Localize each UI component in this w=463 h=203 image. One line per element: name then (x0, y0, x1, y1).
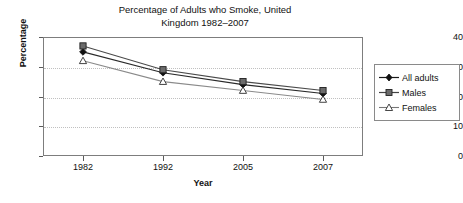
x-axis-title: Year (43, 178, 363, 188)
y-tick-label-0: 0 (437, 151, 463, 161)
plot-area (43, 37, 363, 156)
x-tick-label-1992: 1992 (133, 162, 193, 172)
chart-title: Percentage of Adults who Smoke, United K… (40, 4, 370, 29)
y-tick-mark-20 (39, 97, 43, 98)
legend-marker-filled-square-icon (378, 86, 400, 99)
x-tick-mark-2007 (323, 156, 324, 161)
x-tick-label-2007: 2007 (293, 162, 353, 172)
y-tick-mark-30 (39, 67, 43, 68)
legend-item-females[interactable]: Females (378, 100, 455, 115)
legend-item-all-adults[interactable]: All adults (378, 70, 455, 85)
gridline-10 (44, 127, 362, 128)
x-tick-label-1982: 1982 (53, 162, 113, 172)
legend-marker-filled-diamond-icon (378, 71, 400, 84)
gridline-20 (44, 98, 362, 99)
legend-label-all-adults: All adults (400, 73, 439, 83)
legend-label-males: Males (400, 88, 426, 98)
chart-legend: All adults Males Females (374, 64, 460, 121)
x-tick-mark-1992 (163, 156, 164, 161)
y-tick-mark-10 (39, 126, 43, 127)
legend-marker-open-triangle-icon (378, 101, 400, 114)
legend-label-females: Females (400, 103, 437, 113)
y-tick-mark-40 (39, 37, 43, 38)
gridline-30 (44, 68, 362, 69)
x-tick-label-2005: 2005 (213, 162, 273, 172)
y-axis-title: Percentage (18, 0, 28, 88)
y-tick-mark-0 (39, 156, 43, 157)
y-tick-label-10: 10 (437, 121, 463, 131)
legend-item-males[interactable]: Males (378, 85, 455, 100)
x-tick-mark-1982 (83, 156, 84, 161)
x-tick-mark-2005 (243, 156, 244, 161)
y-tick-label-40: 40 (437, 32, 463, 42)
